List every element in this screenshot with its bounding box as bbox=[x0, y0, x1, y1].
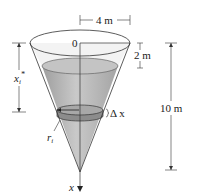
depth-arrow-bottom-icon bbox=[17, 108, 21, 112]
radius-leader bbox=[54, 120, 60, 131]
axis-label: x bbox=[68, 181, 74, 193]
height-arrow-top-icon bbox=[169, 43, 173, 47]
radius-label: ri bbox=[47, 131, 53, 145]
cone-tank-diagram: 4 m 0 2 m 10 m xi* Δ x ri x bbox=[0, 0, 197, 193]
thickness-label: Δ x bbox=[110, 107, 125, 119]
thickness-brace bbox=[106, 109, 109, 117]
axis-arrowhead-icon bbox=[77, 186, 83, 192]
origin-label: 0 bbox=[72, 37, 78, 49]
depth-arrow-top-icon bbox=[17, 43, 21, 47]
depth-label: xi* bbox=[13, 70, 25, 86]
top-width-label: 4 m bbox=[96, 14, 113, 26]
height-arrow-bottom-icon bbox=[169, 166, 173, 170]
height-label: 10 m bbox=[160, 102, 183, 114]
gap-label: 2 m bbox=[134, 49, 151, 61]
